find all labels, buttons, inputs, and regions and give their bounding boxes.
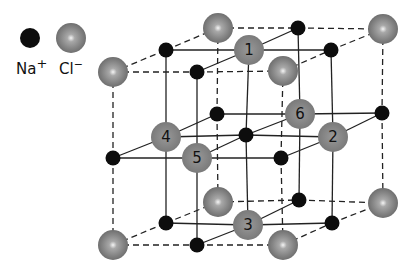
ion-number-label: 5: [192, 149, 202, 167]
cl-ion-icon: [203, 13, 233, 43]
na-ion: [190, 238, 205, 253]
cl-ion: [203, 187, 233, 217]
cl-ion: [203, 13, 233, 43]
legend-na-label: Na+: [16, 56, 47, 78]
na-ion-icon: [106, 151, 121, 166]
cl-ion: [268, 56, 298, 86]
na-ion-icon: [325, 216, 340, 231]
ion-number-label: 2: [328, 128, 338, 146]
cl-ion-icon: [98, 57, 128, 87]
legend: Na+ Cl−: [16, 23, 86, 78]
na-ion-icon: [159, 43, 174, 58]
legend-cl-label: Cl−: [59, 58, 83, 78]
na-ion: [274, 151, 289, 166]
cl-ion: 1: [234, 35, 264, 65]
cl-ion-icon: [98, 230, 128, 260]
cl-ion: 3: [233, 210, 263, 240]
cl-ion-icon: [368, 14, 398, 44]
na-ion-icon: [239, 128, 254, 143]
cl-ion: [268, 230, 298, 260]
na-ion-icon: [291, 21, 306, 36]
ion-number-label: 6: [295, 105, 305, 123]
lattice-ions: 614235: [98, 13, 398, 260]
ion-number-label: 4: [161, 128, 171, 146]
cl-ion: [98, 57, 128, 87]
cl-ion: [98, 230, 128, 260]
na-ion-icon: [375, 106, 390, 121]
cl-ion: 5: [182, 143, 212, 173]
na-ion-icon: [274, 151, 289, 166]
cl-ion: [368, 188, 398, 218]
na-ion: [159, 216, 174, 231]
ion-number-label: 1: [244, 41, 254, 59]
cl-ion: 6: [285, 99, 315, 129]
na-ion-icon: [159, 216, 174, 231]
na-ion: [190, 65, 205, 80]
na-ion: [325, 216, 340, 231]
na-ion: [292, 193, 307, 208]
na-ion: [291, 21, 306, 36]
nacl-crystal-diagram: Na+ Cl− 614235: [0, 0, 414, 271]
na-ion-icon: [190, 238, 205, 253]
cl-ion: 4: [151, 122, 181, 152]
na-ion: [375, 106, 390, 121]
cl-ion-icon: [268, 56, 298, 86]
legend-cl-icon: [56, 23, 86, 53]
legend-na-icon: [20, 28, 40, 48]
na-ion: [239, 128, 254, 143]
cl-ion-icon: [203, 187, 233, 217]
na-ion: [210, 107, 225, 122]
cl-ion: 2: [318, 122, 348, 152]
cl-ion-icon: [368, 188, 398, 218]
na-ion: [106, 151, 121, 166]
cl-ion: [368, 14, 398, 44]
ion-number-label: 3: [243, 216, 253, 234]
na-ion: [159, 43, 174, 58]
na-ion-icon: [190, 65, 205, 80]
na-ion-icon: [292, 193, 307, 208]
cl-ion-icon: [268, 230, 298, 260]
na-ion-icon: [210, 107, 225, 122]
na-ion-icon: [324, 43, 339, 58]
na-ion: [324, 43, 339, 58]
